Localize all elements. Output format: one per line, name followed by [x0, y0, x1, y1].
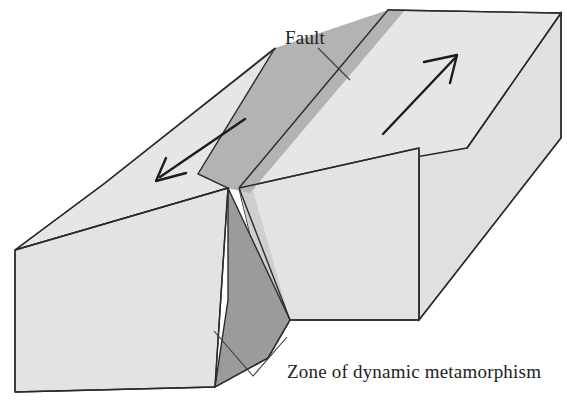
zone-of-dynamic-metamorphism-label: Zone of dynamic metamorphism — [287, 362, 541, 382]
fault-label: Fault — [285, 28, 325, 48]
fault-block-diagram-svg — [0, 0, 567, 401]
block-diagram-figure: Fault Zone of dynamic metamorphism — [0, 0, 567, 401]
